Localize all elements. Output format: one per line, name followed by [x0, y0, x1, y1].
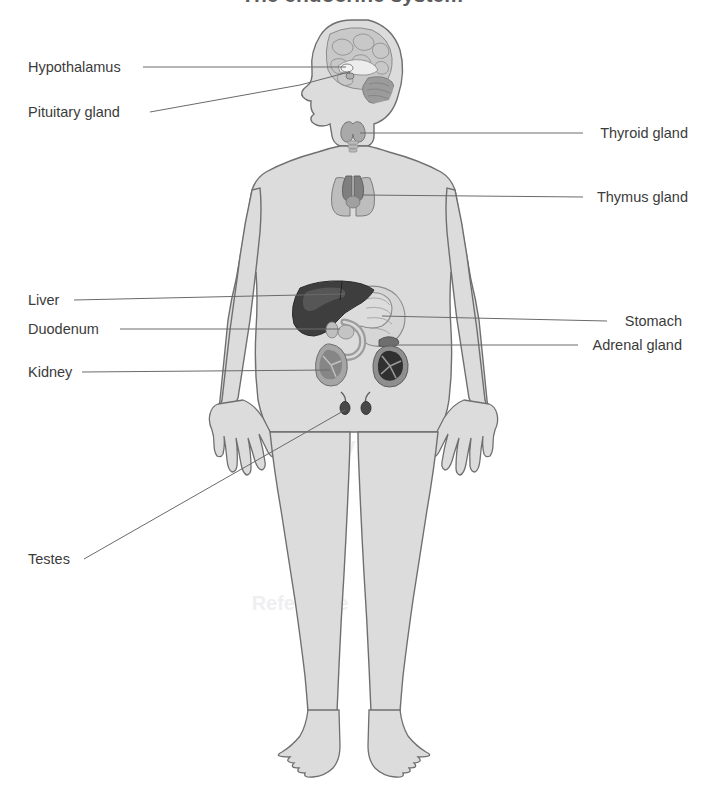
label-testes: Testes	[28, 551, 70, 567]
endocrine-system-figure: Anatomy Reference The endocrine system	[0, 0, 705, 812]
organ-kidney-right	[373, 346, 408, 387]
leg-right	[358, 432, 438, 712]
organ-hypothalamus	[341, 64, 353, 72]
arm-right	[446, 188, 489, 416]
arm-left	[218, 188, 261, 416]
foot-right	[368, 710, 430, 777]
trachea	[348, 141, 358, 152]
label-kidney: Kidney	[28, 364, 73, 380]
organ-testis-right	[361, 402, 371, 415]
organ-kidney-left	[316, 344, 348, 386]
foot-left	[278, 710, 340, 777]
label-duodenum: Duodenum	[28, 321, 99, 337]
page-title: The endocrine system	[241, 0, 463, 6]
organ-gallbladder	[326, 322, 338, 338]
label-thyroid-gland: Thyroid gland	[600, 125, 688, 141]
label-stomach: Stomach	[625, 313, 682, 329]
label-pituitary-gland: Pituitary gland	[28, 104, 120, 120]
diagram-canvas: Anatomy Reference The endocrine system	[0, 0, 705, 812]
label-thymus-gland: Thymus gland	[597, 189, 688, 205]
label-adrenal-gland: Adrenal gland	[593, 337, 683, 353]
leg-left	[270, 432, 350, 712]
heart-shadow	[346, 196, 360, 208]
figure-title-clipped: The endocrine system	[241, 0, 463, 6]
pancreas-head	[338, 325, 354, 339]
label-hypothalamus: Hypothalamus	[28, 59, 121, 75]
label-liver: Liver	[28, 292, 60, 308]
